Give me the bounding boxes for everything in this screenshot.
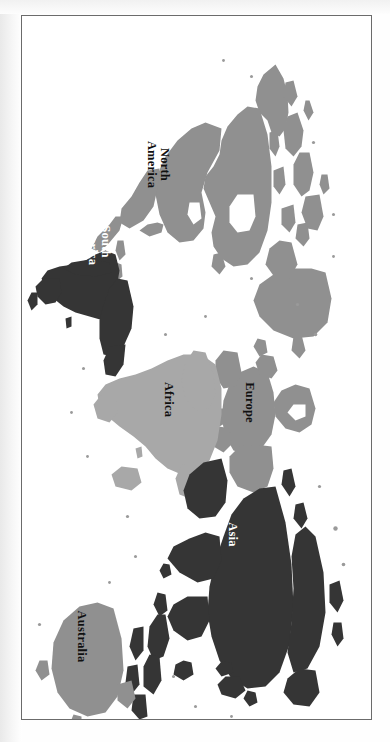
continent-label-australia: Australia (75, 610, 88, 662)
scan-edge-shadow-top (0, 0, 390, 14)
map-frame-border: North America South America Europe Afric… (21, 15, 372, 720)
continent-label-asia: Asia (226, 522, 239, 546)
continent-label-north-america: North America (146, 140, 171, 187)
page-canvas: North America South America Europe Afric… (0, 0, 390, 742)
continent-label-europe: Europe (243, 382, 256, 423)
map-canvas: North America South America Europe Afric… (22, 16, 371, 719)
continent-label-south-america: South America (87, 217, 112, 264)
map-rotation-container: North America South America Europe Afric… (22, 16, 371, 719)
scan-edge-shadow-left (0, 0, 22, 742)
continent-label-africa: Africa (162, 381, 175, 416)
